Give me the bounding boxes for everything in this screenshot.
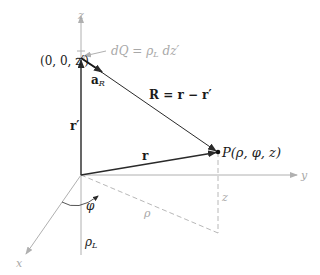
separation-vector-label: R = r − r′: [149, 89, 212, 101]
line-charge-sub: L: [92, 241, 97, 250]
x-axis: [26, 175, 81, 254]
charge-element-eq: =: [132, 44, 142, 58]
charge-element-label: dQ = ρL dz′: [111, 45, 179, 59]
field-vector-label: r: [142, 150, 148, 162]
charge-element-lhs: dQ: [111, 44, 129, 58]
rho-projection-line: [81, 175, 218, 233]
line-charge-label: ρL: [85, 236, 97, 250]
field-point-label: P(ρ, φ, z): [222, 146, 281, 159]
y-axis-label: y: [301, 170, 307, 181]
unit-vector-a: a: [91, 73, 99, 87]
z-axis-label: z: [78, 10, 84, 21]
source-point-label: (0, 0, z′): [40, 55, 89, 67]
radial-distance-label: ρ: [144, 208, 150, 219]
source-vector-label: r′: [70, 120, 80, 132]
unit-vector-label: aR: [91, 74, 105, 88]
x-axis-label: x: [16, 258, 22, 269]
phi-angle-label: φ: [86, 200, 94, 212]
charge-element-rho-sub: L: [153, 50, 158, 59]
field-position-vector: [81, 153, 216, 176]
line-charge-field-diagram: [0, 0, 320, 275]
charge-element-rhs: dz′: [162, 44, 179, 58]
height-label: z: [222, 192, 228, 203]
unit-vector-sub: R: [99, 79, 105, 88]
field-point-dot: [216, 150, 221, 155]
line-charge-rho: ρ: [85, 235, 92, 249]
